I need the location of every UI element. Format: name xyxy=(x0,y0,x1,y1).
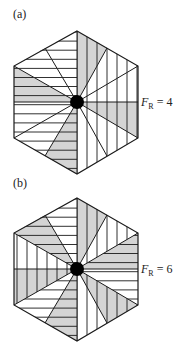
panel-a-hexagon: (a)FR = 4 xyxy=(12,7,172,176)
symmetry-figure: (a)FR = 4 (b)FR = 6 xyxy=(0,0,181,353)
fr-value-label: FR = 4 xyxy=(140,95,172,111)
panel-label: (a) xyxy=(13,7,26,21)
panel-label: (b) xyxy=(13,176,27,190)
panel-b-hexagon: (b)FR = 6 xyxy=(12,176,172,343)
center-dot xyxy=(70,95,84,109)
center-dot xyxy=(70,262,84,276)
fr-value-label: FR = 6 xyxy=(140,262,172,278)
